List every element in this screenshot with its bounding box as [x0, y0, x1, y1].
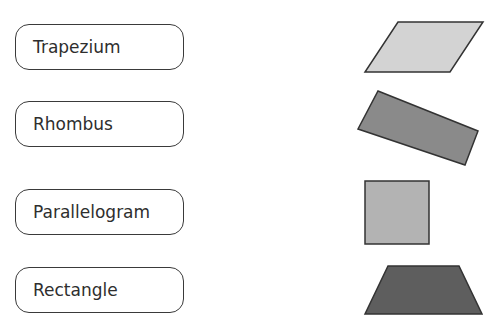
- square-shape[interactable]: [365, 181, 429, 244]
- parallelogram-shape[interactable]: [365, 22, 483, 72]
- shapes-canvas: [0, 0, 496, 325]
- trapezoid-shape[interactable]: [365, 266, 482, 314]
- rotated-rectangle-shape[interactable]: [358, 91, 478, 165]
